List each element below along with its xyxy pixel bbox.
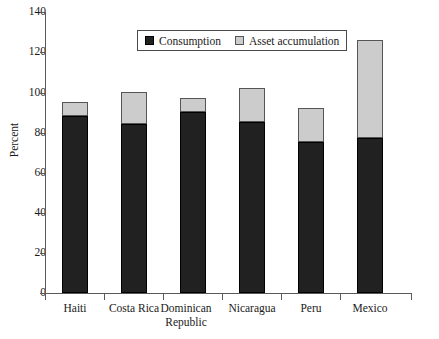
bar-segment-consumption-dominican-republic[interactable] [180,112,206,293]
bar-segment-asset-accumulation-dominican-republic[interactable] [180,98,206,112]
bar-segment-consumption-haiti[interactable] [62,116,88,293]
x-tick-mark-0 [45,294,46,300]
plot-root: Percent 140 120 100 80 60 40 20 [0,0,439,339]
bar-segment-asset-accumulation-haiti[interactable] [62,102,88,116]
x-axis-line [45,293,412,294]
chart-figure: Percent 140 120 100 80 60 40 20 [0,0,439,339]
x-tick-mark-4 [281,294,282,300]
bar-segment-consumption-peru[interactable] [298,142,324,293]
legend-label-consumption: Consumption [159,35,221,47]
x-axis-label-mexico: Mexico [327,302,413,316]
x-tick-mark-6 [411,294,412,300]
bar-segment-asset-accumulation-nicaragua[interactable] [239,88,265,122]
legend-entry-consumption[interactable]: Consumption [145,35,221,47]
x-tick-mark-3 [222,294,223,300]
x-tick-mark-2 [163,294,164,300]
bar-segment-consumption-nicaragua[interactable] [239,122,265,293]
bar-segment-asset-accumulation-costa-rica[interactable] [121,92,147,124]
bar-segment-consumption-mexico[interactable] [357,138,383,293]
bar-segment-asset-accumulation-mexico[interactable] [357,40,383,138]
legend-entry-asset-accumulation[interactable]: Asset accumulation [235,35,339,47]
bars-container [46,12,412,293]
asset-accumulation-swatch-icon [235,36,244,45]
bar-segment-asset-accumulation-peru[interactable] [298,108,324,142]
bar-segment-consumption-costa-rica[interactable] [121,124,147,293]
chart-legend: Consumption Asset accumulation [137,30,347,51]
x-tick-mark-1 [104,294,105,300]
consumption-swatch-icon [145,36,154,45]
legend-label-asset-accumulation: Asset accumulation [249,35,339,47]
x-tick-mark-5 [340,294,341,300]
